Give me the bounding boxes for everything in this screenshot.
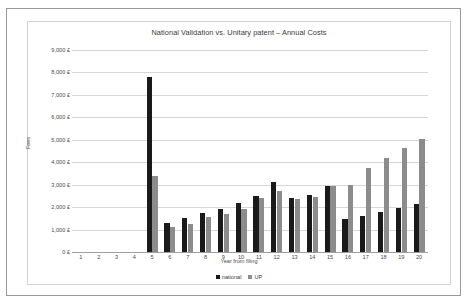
bar-UP xyxy=(241,209,246,252)
chart-legend: national UP xyxy=(28,274,450,280)
bar-national xyxy=(325,186,330,252)
y-axis-tick-label: 7,000 £ xyxy=(30,92,70,98)
legend-swatch-up-icon xyxy=(248,275,252,279)
y-axis-tick-labels: 9,000 £8,000 £7,000 £6,000 £5,000 £4,000… xyxy=(28,50,70,252)
bar-national xyxy=(147,77,152,252)
bar-group xyxy=(161,50,179,252)
bar-UP xyxy=(384,158,389,252)
legend-label-up: UP xyxy=(254,274,262,280)
legend-item-national: national xyxy=(216,274,242,280)
bar-UP xyxy=(419,139,424,252)
bar-group xyxy=(125,50,143,252)
bar-national xyxy=(164,223,169,252)
bar-group xyxy=(321,50,339,252)
bar-group xyxy=(357,50,375,252)
bar-national xyxy=(360,216,365,252)
bar-national xyxy=(396,208,401,252)
bar-group xyxy=(214,50,232,252)
bar-group xyxy=(375,50,393,252)
bar-group xyxy=(232,50,250,252)
y-axis-tick-label: 0 £ xyxy=(30,249,70,255)
bar-UP xyxy=(313,197,318,252)
bar-group xyxy=(392,50,410,252)
bar-group xyxy=(179,50,197,252)
y-axis-title: Fees xyxy=(25,137,31,149)
bar-UP xyxy=(152,176,157,252)
bar-UP xyxy=(295,199,300,252)
chart-container: National Validation vs. Unitary patent –… xyxy=(27,21,451,285)
bar-national xyxy=(253,196,258,252)
bar-national xyxy=(182,218,187,252)
bar-UP xyxy=(259,198,264,252)
chart-title: National Validation vs. Unitary patent –… xyxy=(28,28,450,37)
outer-frame: National Validation vs. Unitary patent –… xyxy=(6,8,461,296)
bar-UP xyxy=(348,185,353,252)
bar-group xyxy=(108,50,126,252)
bar-national xyxy=(289,198,294,252)
bar-national xyxy=(342,219,347,252)
bar-UP xyxy=(206,217,211,252)
bar-national xyxy=(200,213,205,252)
bar-group xyxy=(72,50,90,252)
bar-UP xyxy=(224,214,229,252)
y-axis-tick-label: 8,000 £ xyxy=(30,69,70,75)
x-axis-title: Year from filing xyxy=(28,258,450,264)
bar-UP xyxy=(170,227,175,252)
bar-national xyxy=(414,204,419,252)
bar-national xyxy=(307,195,312,252)
y-axis-tick-label: 6,000 £ xyxy=(30,114,70,120)
bar-national xyxy=(236,203,241,252)
bar-group xyxy=(197,50,215,252)
bar-group xyxy=(303,50,321,252)
bar-UP xyxy=(366,168,371,252)
bar-UP xyxy=(277,191,282,252)
bar-group xyxy=(410,50,428,252)
bar-group xyxy=(90,50,108,252)
legend-label-national: national xyxy=(222,274,242,280)
bar-national xyxy=(378,212,383,252)
bar-UP xyxy=(188,224,193,252)
bar-group xyxy=(143,50,161,252)
y-axis-tick-label: 5,000 £ xyxy=(30,137,70,143)
bar-group xyxy=(286,50,304,252)
y-axis-tick-label: 4,000 £ xyxy=(30,159,70,165)
bar-UP xyxy=(402,148,407,252)
x-axis-line xyxy=(72,252,428,253)
bar-national xyxy=(271,182,276,252)
bar-group xyxy=(339,50,357,252)
y-axis-tick-label: 3,000 £ xyxy=(30,182,70,188)
y-axis-tick-label: 2,000 £ xyxy=(30,204,70,210)
legend-item-up: UP xyxy=(248,274,262,280)
y-axis-tick-label: 1,000 £ xyxy=(30,227,70,233)
bar-group xyxy=(268,50,286,252)
bar-group xyxy=(250,50,268,252)
y-axis-tick-label: 9,000 £ xyxy=(30,47,70,53)
legend-swatch-national-icon xyxy=(216,275,220,279)
plot-area: 1234567891011121314151617181920 xyxy=(72,50,428,252)
bar-national xyxy=(218,209,223,252)
bar-UP xyxy=(330,186,335,252)
